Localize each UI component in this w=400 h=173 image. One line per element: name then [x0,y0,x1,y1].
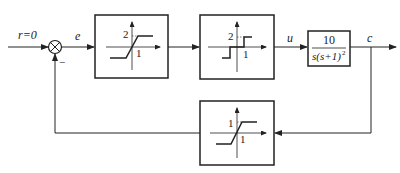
block-diagram: r=0 − e 2 1 2 1 u 10 s(s+1) 2 [0,0,400,173]
block-fb-x-label: 1 [240,133,246,145]
summing-junction [49,41,62,54]
error-label: e [75,29,81,43]
block-saturation-feedback: 1 1 [200,101,274,165]
plant-numerator: 10 [323,33,335,47]
block-relay-deadzone: 2 1 [200,15,274,79]
block2-y-label: 2 [228,30,234,42]
output-label: c [367,31,373,45]
feedback-sign: − [59,56,65,68]
control-label: u [287,31,293,45]
block1-y-label: 2 [123,28,129,40]
plant-denominator-exponent: 2 [342,49,346,57]
block1-x-label: 1 [136,47,142,59]
block-plant-transfer-function: 10 s(s+1) 2 [308,31,350,66]
block2-x-label: 1 [243,48,249,60]
block-fb-y-label: 1 [228,117,234,129]
block-saturation-1: 2 1 [95,15,168,78]
plant-denominator: s(s+1) [312,50,341,63]
input-label: r=0 [18,28,37,42]
